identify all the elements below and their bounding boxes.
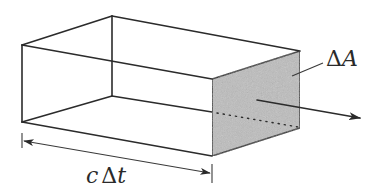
box-back-edges <box>22 16 212 122</box>
area-label: ΔA <box>326 46 358 71</box>
back-bottom-left-edge <box>22 96 112 122</box>
area-label-delta: Δ <box>326 46 342 71</box>
top-back-edge <box>112 16 300 51</box>
top-front-edge <box>22 45 212 79</box>
bottom-front-edge <box>22 122 212 156</box>
top-left-edge <box>22 16 112 45</box>
box-flux-diagram: ΔA cΔt <box>0 0 382 192</box>
length-label: cΔt <box>86 163 126 188</box>
back-bottom-edge <box>112 96 212 112</box>
area-label-var: A <box>340 46 358 71</box>
length-label-delta: Δ <box>101 163 117 188</box>
shaded-end-face <box>212 51 300 156</box>
length-label-c: c <box>86 163 98 188</box>
length-label-t: t <box>117 163 126 188</box>
